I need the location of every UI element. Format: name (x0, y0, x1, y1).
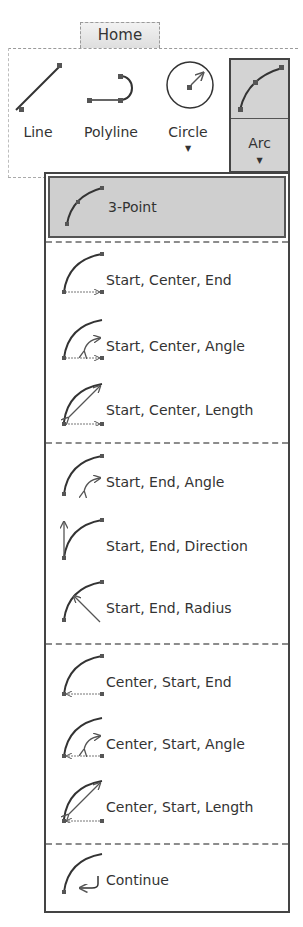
menu-item-start-end-radius[interactable]: Start, End, Radius (46, 578, 288, 638)
menu-item-label: Start, Center, End (106, 250, 232, 310)
menu-item-start-end-direction[interactable]: Start, End, Direction (46, 516, 288, 576)
menu-item-label: Center, Start, End (106, 652, 232, 712)
separator (46, 843, 288, 845)
menu-item-label: Center, Start, Angle (106, 714, 245, 774)
arc-center-start-length-icon (58, 777, 104, 823)
panel-divider (8, 177, 46, 178)
menu-item-label: Start, Center, Length (106, 380, 253, 440)
separator (46, 442, 288, 444)
line-button[interactable]: Line (12, 58, 64, 168)
menu-item-continue[interactable]: Continue (46, 850, 288, 910)
polyline-button[interactable]: Polyline (76, 58, 146, 168)
arc-icon (231, 60, 288, 116)
polyline-label: Polyline (76, 124, 146, 140)
arc-label: Arc (231, 135, 288, 151)
circle-label: Circle (158, 124, 218, 140)
menu-item-3-point[interactable]: 3-Point (48, 176, 286, 238)
arc-3-point-icon (60, 184, 106, 230)
menu-item-center-start-angle[interactable]: Center, Start, Angle (46, 714, 288, 774)
menu-item-start-center-end[interactable]: Start, Center, End (46, 250, 288, 310)
polyline-icon (76, 58, 146, 118)
arc-start-end-direction-icon (58, 516, 104, 562)
menu-item-start-center-angle[interactable]: Start, Center, Angle (46, 316, 288, 376)
line-label: Line (12, 124, 64, 140)
menu-item-start-center-length[interactable]: Start, Center, Length (46, 380, 288, 440)
arc-start-end-radius-icon (58, 578, 104, 624)
menu-item-start-end-angle[interactable]: Start, End, Angle (46, 452, 288, 512)
menu-item-label: 3-Point (108, 178, 157, 236)
chevron-down-icon[interactable]: ▼ (158, 144, 218, 153)
arc-start-center-length-icon (58, 380, 104, 426)
arc-center-start-angle-icon (58, 714, 104, 760)
menu-item-label: Start, Center, Angle (106, 316, 245, 376)
arc-start-end-angle-icon (58, 452, 104, 498)
split-divider (231, 118, 288, 119)
menu-item-center-start-length[interactable]: Center, Start, Length (46, 777, 288, 837)
menu-item-center-start-end[interactable]: Center, Start, End (46, 652, 288, 712)
menu-item-label: Center, Start, Length (106, 777, 253, 837)
chevron-down-icon[interactable]: ▼ (231, 156, 288, 165)
arc-continue-icon (58, 850, 104, 896)
menu-item-label: Start, End, Direction (106, 516, 248, 576)
arc-center-start-end-icon (58, 652, 104, 698)
tab-home[interactable]: Home (80, 22, 160, 48)
circle-icon (158, 58, 218, 118)
line-icon (12, 58, 64, 118)
arc-start-center-end-icon (58, 250, 104, 296)
separator (46, 643, 288, 645)
arc-start-center-angle-icon (58, 316, 104, 362)
arc-button[interactable]: Arc ▼ (229, 58, 290, 173)
arc-dropdown-menu: 3-Point Start, Center, End Start, Center… (44, 172, 290, 913)
menu-item-label: Continue (106, 850, 169, 910)
menu-item-label: Start, End, Angle (106, 452, 224, 512)
circle-button[interactable]: Circle ▼ (158, 58, 218, 168)
separator (46, 241, 288, 243)
menu-item-label: Start, End, Radius (106, 578, 232, 638)
